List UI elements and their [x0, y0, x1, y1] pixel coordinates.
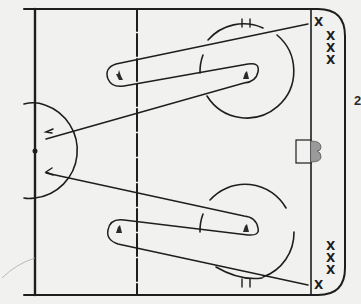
cone-icon	[243, 71, 249, 79]
player-x: X	[326, 54, 335, 66]
cone-icon	[116, 70, 123, 80]
player-x: X	[314, 16, 323, 28]
hockey-drill-diagram: X X X X X X X X 2	[0, 0, 361, 304]
rink-drawing	[0, 0, 361, 304]
drill-number-label: 2	[354, 93, 361, 108]
stray-mark	[2, 258, 35, 278]
cone-icon	[243, 224, 249, 232]
cone-icon	[116, 225, 122, 233]
player-x: X	[314, 279, 323, 291]
player-x: X	[326, 264, 335, 276]
center-dot	[33, 149, 38, 154]
faceoff-circle-top	[200, 19, 294, 118]
skating-path-top	[46, 24, 308, 139]
net	[296, 140, 321, 163]
center-circle	[24, 103, 77, 199]
pass-arrow-top	[46, 129, 53, 133]
